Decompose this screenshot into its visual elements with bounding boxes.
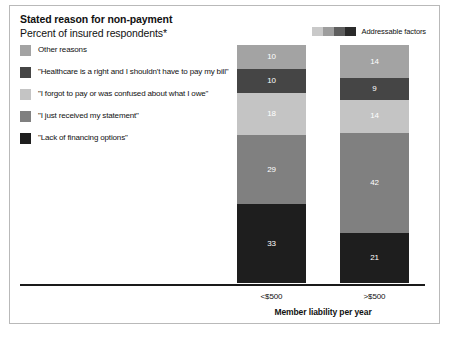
bar-column-1: 149144221 <box>340 45 409 283</box>
bar-stack-1: 149144221 <box>340 45 409 283</box>
bar-segment-0-0: 10 <box>237 45 306 69</box>
x-axis-baseline <box>20 284 425 286</box>
bar-stack-0: 1010182933 <box>237 45 306 283</box>
bar-segment-value-1-4: 21 <box>370 254 379 262</box>
bar-segment-value-1-2: 14 <box>370 112 379 120</box>
plot-area: 1010182933 149144221 <$500 >$500 Member … <box>10 6 441 325</box>
bar-segment-1-1: 9 <box>340 78 409 99</box>
bar-segment-value-0-3: 29 <box>267 166 276 174</box>
bar-segment-1-4: 21 <box>340 233 409 283</box>
bar-segment-0-4: 33 <box>237 204 306 283</box>
bar-segment-value-1-0: 14 <box>370 58 379 66</box>
bar-segment-value-1-1: 9 <box>372 85 376 93</box>
bar-segment-1-0: 14 <box>340 45 409 78</box>
bar-segment-1-3: 42 <box>340 133 409 233</box>
bar-segment-value-1-3: 42 <box>370 179 379 187</box>
bar-segment-value-0-0: 10 <box>267 53 276 61</box>
bar-segment-1-2: 14 <box>340 100 409 133</box>
bar-segment-0-1: 10 <box>237 69 306 93</box>
bar-segment-value-0-2: 18 <box>267 110 276 118</box>
bar-segment-0-3: 29 <box>237 135 306 204</box>
bar-column-0: 1010182933 <box>237 45 306 283</box>
bar-segment-value-0-4: 33 <box>267 240 276 248</box>
x-tick-label-1: >$500 <box>340 292 409 301</box>
exhibit-frame: Stated reason for non-payment Percent of… <box>9 5 440 324</box>
bar-segment-0-2: 18 <box>237 93 306 136</box>
x-axis-title: Member liability per year <box>237 307 409 317</box>
x-tick-label-0: <$500 <box>237 292 306 301</box>
bar-segment-value-0-1: 10 <box>267 77 276 85</box>
